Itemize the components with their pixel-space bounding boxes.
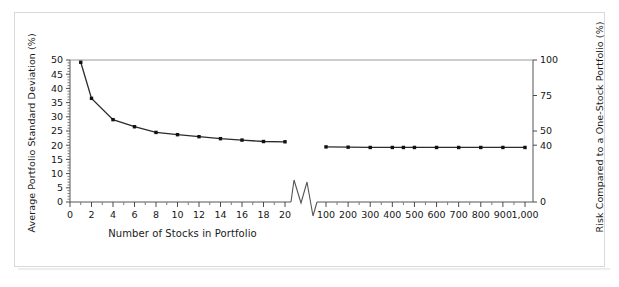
x-tick-label: 300 [361,209,379,220]
data-point-marker [111,118,114,121]
data-point-marker [479,146,482,149]
y-tick-label: 25 [51,125,63,136]
y-tick-label: 5 [57,182,63,193]
tick-labels-layer: 0510152025303540455004050751000246810121… [51,54,558,220]
secondary-y-tick-label: 40 [540,140,552,151]
series-line-segment-right [326,147,525,148]
series-line-segment-left [81,62,285,142]
x-tick-label: 100 [317,209,335,220]
x-tick-label: 600 [427,209,445,220]
data-point-marker [457,146,460,149]
x-tick-label: 4 [110,209,116,220]
x-tick-label: 2 [88,209,94,220]
data-point-marker [523,146,526,149]
x-tick-label: 14 [214,209,226,220]
data-point-marker [402,146,405,149]
y-tick-label: 45 [51,69,63,80]
x-tick-label: 8 [153,209,159,220]
x-tick-label: 900 [494,209,512,220]
data-point-marker [219,137,222,140]
data-point-marker [435,146,438,149]
secondary-y-tick-label: 50 [540,125,552,136]
data-point-marker [391,146,394,149]
y-tick-label: 50 [51,54,63,65]
chart-plot: 0510152025303540455004050751000246810121… [14,12,605,267]
data-point-marker [133,125,136,128]
y-tick-label: 0 [57,196,63,207]
data-point-marker [79,61,82,64]
data-point-marker [90,97,93,100]
data-point-marker [413,146,416,149]
x-tick-label: 500 [405,209,423,220]
axes-layer [70,60,533,216]
y-tick-label: 10 [51,168,63,179]
x-tick-label: 6 [131,209,137,220]
x-tick-label: 18 [257,209,269,220]
x-tick-label: 0 [67,209,73,220]
x-tick-label: 700 [450,209,468,220]
x-tick-label: 200 [339,209,357,220]
data-point-marker [197,135,200,138]
y-tick-label: 35 [51,97,63,108]
data-point-marker [262,140,265,143]
x-tick-label: 20 [279,209,291,220]
x-tick-label: 1,000 [511,209,538,220]
data-point-marker [154,131,157,134]
data-point-marker [324,145,327,148]
y-tick-label: 20 [51,140,63,151]
secondary-y-tick-label: 100 [540,54,558,65]
data-point-marker [501,146,504,149]
x-tick-label: 10 [171,209,183,220]
x-tick-label: 400 [383,209,401,220]
secondary-y-tick-label: 0 [540,196,546,207]
y-tick-label: 40 [51,83,63,94]
figure-root: Average Portfolio Standard Deviation (%)… [0,0,619,287]
data-point-marker [346,145,349,148]
data-point-marker [369,146,372,149]
y-tick-label: 15 [51,154,63,165]
x-tick-label: 800 [472,209,490,220]
data-point-marker [283,140,286,143]
y-tick-label: 30 [51,111,63,122]
figure-shadow [18,268,610,271]
x-tick-label: 12 [193,209,205,220]
data-point-marker [240,138,243,141]
ticks-layer [66,60,537,207]
x-tick-label: 16 [236,209,248,220]
data-point-marker [176,133,179,136]
secondary-y-tick-label: 75 [540,90,552,101]
series-layer [79,61,527,150]
